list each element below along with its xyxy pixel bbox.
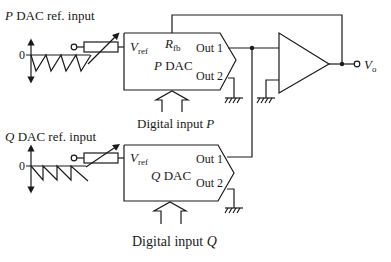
- p-digital-input-label: Digital input P: [137, 116, 214, 131]
- q-dac-name: Q DAC: [151, 168, 191, 183]
- output-terminal-icon: [354, 61, 360, 67]
- p-out2-wire: [228, 78, 234, 98]
- q-out1-label: Out 1: [196, 152, 223, 166]
- p-dac-name: P DAC: [153, 58, 193, 73]
- q-zero-label: 0: [19, 159, 25, 173]
- q-ref-input-label: Q DAC ref. input: [5, 129, 96, 144]
- p-vref-label: Vref: [130, 39, 148, 56]
- q-digital-input-arrow-icon: [154, 202, 186, 224]
- q-variable-resistor-icon: [71, 146, 124, 167]
- p-dac-block: Vref Rfb P DAC Out 1 Out 2: [124, 33, 236, 90]
- circuit-diagram: P DAC ref. input 0 Vref Rfb P DAC Out 1 …: [0, 0, 391, 262]
- p-out1-label: Out 1: [196, 41, 223, 55]
- q-sawtooth-waveform: 0: [19, 148, 88, 190]
- q-out2-label: Out 2: [196, 176, 223, 190]
- opamp-ground-wire: [266, 80, 279, 98]
- q-vref-label: Vref: [130, 150, 148, 167]
- q-dac-block: Vref Q DAC Out 1 Out 2: [124, 145, 234, 201]
- p-sawtooth-waveform: 0: [19, 42, 91, 80]
- q-out1-wire: [227, 48, 252, 157]
- p-rfb-label: Rfb: [164, 36, 181, 53]
- ground-icon: [225, 98, 243, 103]
- output-junction-dot: [340, 62, 344, 66]
- p-variable-resistor-icon: [71, 35, 124, 64]
- p-ref-input-label: P DAC ref. input: [4, 8, 95, 23]
- q-out2-wire: [227, 189, 234, 208]
- output-label: Vo: [364, 57, 377, 74]
- p-zero-label: 0: [19, 48, 25, 62]
- p-digital-input-arrow-icon: [156, 91, 188, 112]
- ground-icon: [225, 208, 243, 213]
- op-amp-icon: [279, 33, 329, 93]
- p-out2-label: Out 2: [196, 69, 223, 83]
- q-digital-input-label: Digital input Q: [132, 234, 217, 249]
- ground-icon: [257, 98, 275, 103]
